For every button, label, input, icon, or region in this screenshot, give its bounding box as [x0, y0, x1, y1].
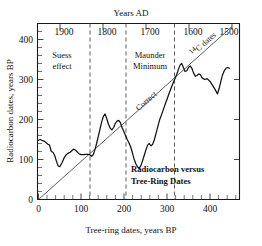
y-axis-ticks — [38, 32, 44, 200]
x-axis-ticks — [39, 194, 236, 200]
suess-effect-line2: effect — [52, 61, 72, 71]
y-tick-label-300: 300 — [19, 75, 34, 85]
x-tick-label-200: 200 — [117, 204, 132, 214]
y-tick-labels: 400 300 200 100 0 — [19, 35, 34, 205]
x-tick-label-400: 400 — [203, 204, 218, 214]
maunder-minimum-line1: Maunder — [135, 50, 166, 60]
top-tick-label-1800: 1800 — [98, 27, 117, 37]
correct-line-label: Correct — [134, 89, 159, 113]
y-tick-label-200: 200 — [19, 115, 34, 125]
y-axis-title: Radiocarbon dates, years BP — [5, 59, 15, 162]
top-tick-label-1500: 1500 — [220, 27, 239, 37]
chart-title-line1: Radiocarbon versus — [131, 164, 205, 174]
top-axis-title: Years AD — [114, 8, 149, 18]
radiocarbon-calibration-chart: 400 300 200 100 0 0 100 200 300 400 1900… — [0, 0, 262, 246]
x-tick-label-100: 100 — [74, 204, 89, 214]
y-tick-label-0: 0 — [28, 195, 33, 205]
right-axis-ticks — [234, 80, 240, 160]
chart-title-line2: Tree-Ring Dates — [131, 176, 191, 186]
top-tick-label-1700: 1700 — [141, 27, 160, 37]
annotation-maunder-minimum: Maunder Minimum — [133, 50, 167, 71]
chart-svg: 400 300 200 100 0 0 100 200 300 400 1900… — [0, 0, 262, 246]
suess-effect-line1: Suess — [52, 50, 71, 60]
top-tick-label-1900: 1900 — [55, 27, 74, 37]
x-axis-title: Tree-ring dates, years BP — [85, 225, 176, 235]
annotation-suess-effect: Suess effect — [52, 50, 72, 71]
calibration-curve — [39, 64, 230, 169]
top-tick-label-1600: 1600 — [184, 27, 203, 37]
x-tick-label-300: 300 — [160, 204, 175, 214]
chart-title-block: Radiocarbon versus Tree-Ring Dates — [131, 164, 205, 186]
maunder-minimum-line2: Minimum — [133, 61, 167, 71]
x-tick-label-0: 0 — [36, 204, 41, 214]
y-tick-label-400: 400 — [19, 35, 34, 45]
x-tick-labels: 0 100 200 300 400 — [36, 204, 217, 214]
y-tick-label-100: 100 — [19, 155, 34, 165]
